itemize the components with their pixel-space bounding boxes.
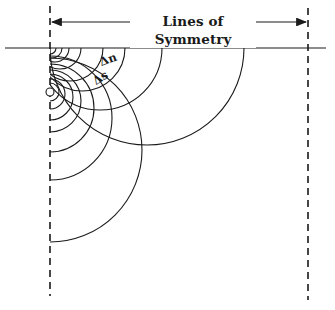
source-point bbox=[46, 88, 54, 96]
lines-of-symmetry-label: Lines of Symmetry bbox=[130, 12, 256, 48]
equipotential-lines bbox=[0, 56, 142, 242]
equipotential-arc bbox=[0, 58, 142, 242]
